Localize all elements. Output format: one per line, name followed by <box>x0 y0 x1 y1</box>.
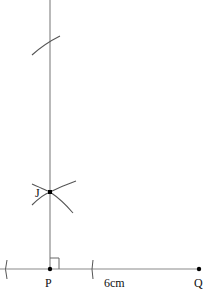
label-j: J <box>35 186 40 200</box>
construction-arc-top <box>32 36 60 55</box>
label-p: P <box>45 276 52 290</box>
label-q: Q <box>194 276 203 290</box>
point-j <box>48 190 52 194</box>
label-length-pq: 6cm <box>104 276 125 290</box>
point-p <box>48 267 52 271</box>
construction-diagram: J P Q 6cm <box>0 0 216 293</box>
point-q <box>197 267 201 271</box>
